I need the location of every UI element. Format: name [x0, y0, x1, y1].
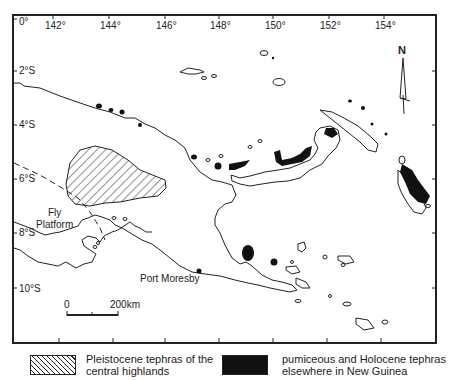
legend-pleistocene-line2: central highlands — [86, 365, 213, 377]
legend-holocene-line1: pumiceous and Holocene tephras — [282, 353, 446, 365]
north-arrow — [400, 58, 410, 114]
legend-pleistocene-line1: Pleistocene tephras of the — [86, 353, 213, 365]
map-legend: Pleistocene tephras of the central highl… — [0, 345, 450, 380]
solid-swatch — [222, 355, 268, 375]
hatched-swatch — [30, 355, 76, 375]
tephra-distribution-map: 0° 142° 144° 146° 148° 150° 152° 154° 2°… — [0, 0, 450, 345]
scale-end-label: 200km — [110, 299, 140, 310]
lon-label-148: 148° — [210, 20, 231, 31]
lon-label-144: 144° — [100, 20, 121, 31]
lat-label-10s: 10°S — [19, 283, 41, 294]
scale-start-label: 0 — [64, 299, 70, 310]
legend-item-pleistocene: Pleistocene tephras of the central highl… — [30, 353, 213, 377]
lon-label-154: 154° — [375, 20, 396, 31]
legend-item-holocene: pumiceous and Holocene tephras elsewhere… — [222, 353, 446, 377]
lat-label-8s: 8°S — [19, 227, 35, 238]
map-canvas — [0, 0, 450, 345]
lon-label-146: 146° — [156, 20, 177, 31]
lon-label-150: 150° — [265, 20, 286, 31]
lat-label-6s: 6°S — [19, 173, 35, 184]
new-britain-outline — [231, 126, 340, 186]
lon-label-152: 152° — [320, 20, 341, 31]
lon-label-142: 142° — [45, 20, 66, 31]
lat-label-4s: 4°S — [19, 119, 35, 130]
scale-bar — [67, 311, 118, 316]
fly-platform-label: Fly Platform — [36, 207, 73, 231]
north-label: N — [398, 44, 406, 56]
port-moresby-label: Port Moresby — [140, 273, 199, 285]
legend-holocene-line2: elsewhere in New Guinea — [282, 365, 446, 377]
lon-label-0: 0° — [19, 16, 29, 27]
pleistocene-tephra-area — [66, 146, 166, 206]
holocene-tephra-areas — [96, 57, 430, 274]
lat-label-2s: 2°S — [19, 65, 35, 76]
